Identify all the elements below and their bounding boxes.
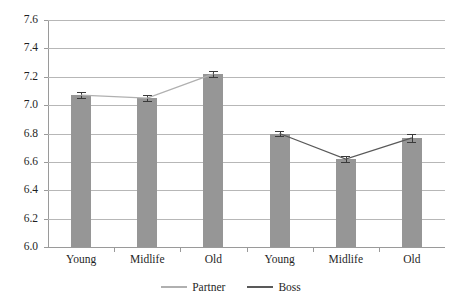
y-axis-tick-label: 7.6 [4,14,38,26]
series-line-partner [81,74,213,98]
legend-item-boss: Boss [247,281,300,293]
legend-line-swatch [161,286,187,288]
series-line-boss [280,134,412,160]
chart-legend: PartnerBoss [0,281,462,293]
series-lines [48,20,445,247]
legend-item-partner: Partner [161,281,225,293]
y-axis-tick-label: 6.4 [4,184,38,196]
y-axis-tick-label: 7.2 [4,71,38,83]
y-axis-tick-label: 6.2 [4,213,38,225]
legend-label: Partner [192,281,225,293]
x-axis-tick-mark [180,248,181,252]
legend-line-swatch [247,286,273,288]
plot-area [48,20,445,247]
y-axis-tick-label: 6.8 [4,128,38,140]
y-axis-tick-label: 6.0 [4,241,38,253]
legend-label: Boss [278,281,300,293]
x-axis-tick-mark [313,248,314,252]
y-axis-tick-label: 7.4 [4,42,38,54]
y-axis-tick-label: 7.0 [4,99,38,111]
x-axis-tick-mark [114,248,115,252]
x-axis-tick-mark [379,248,380,252]
y-axis-labels: 7.67.47.27.06.86.66.46.26.0 [0,0,42,303]
x-axis-tick-mark [247,248,248,252]
x-axis-tick-label: Old [372,253,452,266]
y-axis-tick-label: 6.6 [4,156,38,168]
chart-container: 7.67.47.27.06.86.66.46.26.0 YoungMidlife… [0,0,462,303]
